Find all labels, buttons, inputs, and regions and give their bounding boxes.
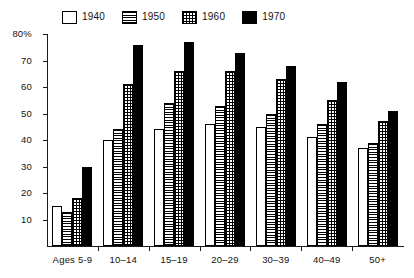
legend-item-1950: 1950 [122, 11, 165, 24]
y-axis-tick-label: 70 [21, 56, 32, 66]
bar-1950-10-14 [113, 129, 123, 246]
y-axis-tick-label: 10 [21, 215, 32, 225]
legend-label: 1960 [202, 12, 225, 22]
bar-groups [48, 34, 404, 246]
chart-legend: 1940195019601970 [62, 9, 285, 25]
x-axis-label: 30–39 [250, 255, 301, 265]
bar-1960-10-14 [123, 84, 133, 246]
x-axis-separator-tick [301, 247, 302, 251]
bar-1970-10-14 [133, 45, 143, 246]
x-axis-separator-tick [200, 247, 201, 251]
x-axis-label: 10–14 [98, 255, 149, 265]
bar-1960-Ages-5-9 [72, 198, 82, 246]
legend-swatch-solid-icon [242, 11, 257, 24]
y-axis-tick-label: 60 [21, 82, 32, 92]
bar-group [52, 34, 94, 246]
legend-label: 1970 [262, 12, 285, 22]
y-axis-tick-label: 50 [21, 109, 32, 119]
bar-1950-50+ [368, 143, 378, 246]
y-axis-tick-label: 40 [21, 135, 32, 145]
bar-group [103, 34, 145, 246]
legend-item-1940: 1940 [62, 11, 105, 24]
x-axis-line [47, 246, 404, 247]
y-axis-tick-label: 20 [21, 188, 32, 198]
x-axis-separator-tick [352, 247, 353, 251]
bar-1950-Ages-5-9 [62, 212, 72, 246]
bar-group [307, 34, 349, 246]
x-axis-label: 40–49 [301, 255, 352, 265]
bar-1940-Ages-5-9 [52, 206, 62, 246]
bar-1970-40-49 [337, 82, 347, 246]
bar-1950-20-29 [215, 106, 225, 246]
bar-chart: 1940195019601970 1020304050607080% Ages … [0, 0, 414, 278]
bar-1950-30-39 [266, 114, 276, 247]
x-axis-label: 20–29 [200, 255, 251, 265]
y-axis-tick-label: 30 [21, 162, 32, 172]
x-axis-label: 15–19 [149, 255, 200, 265]
legend-swatch-hstripe-icon [122, 11, 137, 24]
plot-area: 1020304050607080% Ages 5-910–1415–1920–2… [47, 34, 404, 246]
bar-1940-50+ [358, 148, 368, 246]
bar-1960-30-39 [276, 79, 286, 246]
bar-1970-15-19 [184, 42, 194, 246]
x-axis-separator-tick [250, 247, 251, 251]
x-axis-separator-tick [98, 247, 99, 251]
bar-1940-30-39 [256, 127, 266, 246]
bar-1970-20-29 [235, 53, 245, 246]
x-axis-label: Ages 5-9 [47, 255, 98, 265]
x-axis-label: 50+ [352, 255, 403, 265]
bar-1960-50+ [378, 121, 388, 246]
bar-1950-15-19 [164, 103, 174, 246]
bar-1940-15-19 [154, 129, 164, 246]
legend-item-1970: 1970 [242, 11, 285, 24]
legend-swatch-open-icon [62, 11, 77, 24]
legend-item-1960: 1960 [182, 11, 225, 24]
x-axis-separator-tick [149, 247, 150, 251]
bar-1940-40-49 [307, 137, 317, 246]
bar-1950-40-49 [317, 124, 327, 246]
bar-1960-20-29 [225, 71, 235, 246]
bar-1970-Ages-5-9 [82, 167, 92, 247]
bar-1960-15-19 [174, 71, 184, 246]
bar-group [358, 34, 400, 246]
bar-1960-40-49 [327, 100, 337, 246]
bar-1940-20-29 [205, 124, 215, 246]
legend-label: 1940 [82, 12, 105, 22]
bar-group [205, 34, 247, 246]
bar-group [154, 34, 196, 246]
bar-1970-50+ [388, 111, 398, 246]
y-axis-tick-label: 80% [12, 29, 32, 39]
bar-1970-30-39 [286, 66, 296, 246]
legend-label: 1950 [142, 12, 165, 22]
bar-group [256, 34, 298, 246]
bar-1940-10-14 [103, 140, 113, 246]
legend-swatch-dot-icon [182, 11, 197, 24]
